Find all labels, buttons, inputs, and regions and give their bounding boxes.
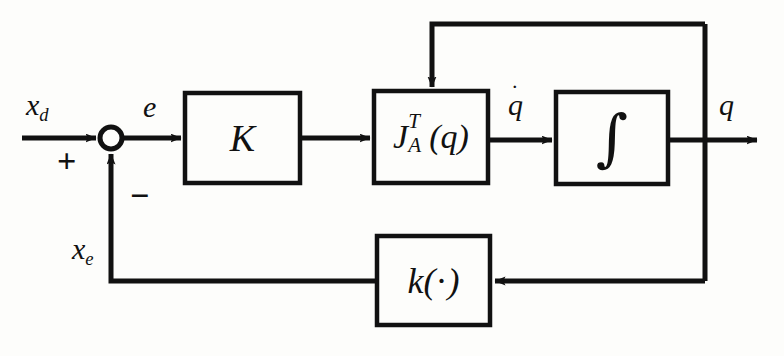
diagram-vector-layer bbox=[0, 0, 784, 356]
block-feedback-rect bbox=[377, 236, 490, 325]
block-diagram-canvas: K JTA(q) ∫ k(·) xd e ˙q q xe + − bbox=[0, 0, 784, 356]
wire-top-feedback bbox=[432, 24, 705, 87]
summing-junction bbox=[100, 127, 122, 149]
block-gain-rect bbox=[185, 93, 300, 183]
block-integrator-rect bbox=[556, 92, 668, 184]
block-jacobian-rect bbox=[374, 91, 488, 183]
